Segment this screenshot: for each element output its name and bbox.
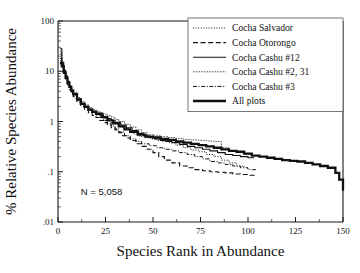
legend-entry-label: Cocha Cashu #3 (232, 81, 295, 92)
y-tick-label: .01 (43, 217, 54, 227)
legend-entry-label: Cocha Otorongo (232, 37, 296, 48)
x-tick-label: 150 (336, 226, 350, 236)
x-tick-label: 125 (289, 226, 303, 236)
x-tick-label: 25 (101, 226, 111, 236)
chart-canvas: 100101.1.010255075100125150 N = 5,058 Co… (0, 0, 360, 273)
rank-abundance-figure: 100101.1.010255075100125150 N = 5,058 Co… (0, 0, 360, 273)
x-tick-label: 75 (196, 226, 206, 236)
x-axis-title: Species Rank in Abundance (117, 243, 285, 259)
legend-entry-label: Cocha Cashu #2, 31 (232, 66, 309, 77)
legend-entry-label: All plots (232, 95, 266, 106)
y-tick-label: 1 (50, 117, 55, 127)
y-tick-label: .1 (47, 167, 54, 177)
x-tick-label: 100 (241, 226, 255, 236)
legend-entry-label: Cocha Cashu #12 (232, 52, 300, 63)
x-tick-label: 50 (149, 226, 159, 236)
legend-group: Cocha SalvadorCocha OtorongoCocha Cashu … (188, 18, 343, 112)
y-axis-title: % Relative Species Abundance (3, 28, 19, 215)
legend-entry-label: Cocha Salvador (232, 22, 294, 33)
x-tick-label: 0 (56, 226, 61, 236)
sample-size: N = 5,058 (81, 186, 122, 197)
y-tick-label: 100 (41, 16, 55, 26)
annotation-group: N = 5,058 (81, 186, 122, 197)
y-tick-label: 10 (45, 66, 55, 76)
